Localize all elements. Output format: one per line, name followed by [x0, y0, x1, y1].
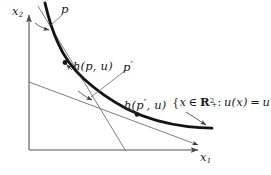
- hicksian-demand-p-prime-label: h(p′, u): [124, 99, 167, 111]
- y-axis-label: x2: [12, 6, 23, 18]
- hicksian-demand-diagram: x1 x2 p p′ h(p, u) h(p′, u) {x ∈ R2+: u(…: [0, 0, 271, 175]
- budget-line-p-prime: [29, 82, 198, 145]
- price-vector-p-label: p: [61, 4, 69, 16]
- leader-p-prime: [91, 70, 126, 97]
- leader-level-set: [186, 112, 206, 125]
- hicksian-demand-p-label: h(p, u): [73, 61, 113, 73]
- tangency-point-p: [63, 60, 68, 65]
- x-axis-label: x1: [200, 152, 211, 164]
- level-set-label: {x ∈ R2+: u(x) = u}: [172, 97, 271, 109]
- diagram-canvas: [0, 0, 271, 175]
- tangency-arrow-p-top: [35, 23, 49, 30]
- tangency-point-p-prime: [135, 112, 139, 116]
- price-vector-p-prime-label: p′: [123, 61, 133, 73]
- leader-price-p: [51, 15, 62, 25]
